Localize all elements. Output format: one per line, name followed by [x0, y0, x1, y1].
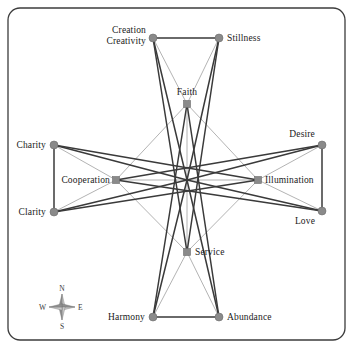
label-illumination: Illumination	[265, 175, 314, 185]
node-love[interactable]	[318, 207, 326, 215]
diagram-canvas: CreationCreativityStillnessFaithCharityD…	[0, 0, 353, 348]
compass-label-east: E	[78, 303, 83, 312]
label-love: Love	[295, 216, 315, 226]
network-diagram: CreationCreativityStillnessFaithCharityD…	[0, 0, 353, 348]
label-charity: Charity	[16, 140, 46, 150]
node-cooperation[interactable]	[113, 177, 120, 184]
node-harmony[interactable]	[149, 313, 157, 321]
label-stillness: Stillness	[227, 33, 261, 43]
label-creation_creativity: CreationCreativity	[107, 25, 147, 46]
node-faith[interactable]	[184, 101, 191, 108]
label-cooperation: Cooperation	[61, 175, 110, 185]
label-faith: Faith	[177, 87, 197, 97]
node-service[interactable]	[184, 249, 191, 256]
node-abundance[interactable]	[215, 313, 223, 321]
node-desire[interactable]	[318, 141, 326, 149]
node-clarity[interactable]	[50, 208, 58, 216]
label-service: Service	[195, 247, 225, 257]
label-clarity: Clarity	[19, 207, 47, 217]
compass-label-west: W	[39, 303, 47, 312]
node-creation_creativity[interactable]	[149, 34, 157, 42]
compass-label-south: S	[60, 322, 64, 331]
node-stillness[interactable]	[215, 34, 223, 42]
label-harmony: Harmony	[108, 312, 145, 322]
node-charity[interactable]	[50, 141, 58, 149]
compass-label-north: N	[59, 284, 65, 293]
label-desire: Desire	[289, 129, 315, 139]
node-illumination[interactable]	[255, 177, 262, 184]
label-abundance: Abundance	[227, 312, 272, 322]
